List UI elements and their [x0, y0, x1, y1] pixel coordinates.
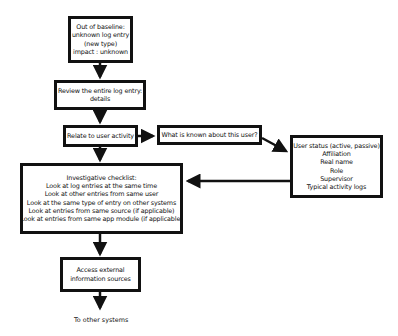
node-text: Investigative checklist:	[67, 174, 137, 182]
to-other-systems-label: To other systems	[74, 316, 128, 324]
out-of-baseline-node: Out of baseline: unknown log entry (new …	[68, 16, 133, 63]
node-text: Review the entire log entry:	[58, 87, 142, 95]
node-text: Access external	[77, 266, 125, 274]
node-text: impact : unknown	[73, 48, 128, 56]
node-text: details	[90, 95, 110, 103]
node-text: (new type)	[84, 40, 117, 48]
node-text: Look at the same type of entry on other …	[27, 199, 176, 207]
investigative-checklist-node: Investigative checklist: Look at log ent…	[20, 163, 183, 234]
node-text: Role	[330, 167, 343, 175]
node-text: Real name	[320, 158, 353, 166]
node-text: Look at other entries from same user	[45, 190, 159, 198]
node-text: information sources	[70, 275, 131, 283]
relate-user-activity-node: Relate to user activity	[63, 125, 138, 147]
node-text: What is known about this user?	[162, 131, 258, 139]
access-external-sources-node: Access external information sources	[60, 257, 141, 292]
review-log-entry-node: Review the entire log entry: details	[54, 80, 146, 110]
node-text: Look at entries from same app module (if…	[20, 215, 182, 223]
node-text: Out of baseline:	[76, 23, 124, 31]
node-text: Typical activity logs	[307, 183, 366, 191]
node-text: User status (active, passive)	[293, 142, 380, 150]
node-text: unknown log entry	[72, 31, 129, 39]
node-text: Look at entries from same source (if app…	[29, 207, 175, 215]
node-text: Relate to user activity	[67, 132, 134, 140]
user-status-node: User status (active, passive) Affiliatio…	[290, 135, 383, 198]
node-text: Look at log entries at the same time	[46, 182, 157, 190]
what-is-known-node: What is known about this user?	[157, 125, 262, 145]
node-text: Affiliation	[322, 150, 350, 158]
node-text: Supervisor	[320, 175, 353, 183]
